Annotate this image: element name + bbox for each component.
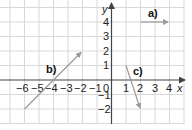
svg-text:1: 1 — [103, 59, 109, 71]
y-axis-label: y — [101, 3, 109, 15]
svg-text:−1: −1 — [98, 89, 111, 101]
vector-c-label: c) — [133, 65, 143, 77]
svg-text:3: 3 — [103, 30, 109, 42]
svg-text:−6: −6 — [16, 82, 29, 94]
svg-text:−3: −3 — [60, 82, 73, 94]
vector-a-label: a) — [148, 7, 158, 19]
vector-b — [25, 53, 82, 110]
svg-text:−2: −2 — [74, 82, 87, 94]
svg-text:−4: −4 — [45, 82, 58, 94]
svg-text:4: 4 — [166, 82, 172, 94]
svg-text:1: 1 — [123, 82, 129, 94]
svg-text:2: 2 — [103, 45, 109, 57]
svg-text:−2: −2 — [98, 103, 111, 115]
svg-text:3: 3 — [152, 82, 158, 94]
coordinate-plane: x y −6 −5 −4 −3 −2 −1 0 1 2 3 4 4 3 2 1 … — [0, 0, 192, 130]
x-tick-labels: −6 −5 −4 −3 −2 −1 0 1 2 3 4 — [16, 82, 172, 94]
svg-text:4: 4 — [103, 16, 109, 28]
x-axis-label: x — [176, 82, 183, 94]
vector-b-label: b) — [46, 63, 57, 75]
svg-text:2: 2 — [137, 82, 143, 94]
